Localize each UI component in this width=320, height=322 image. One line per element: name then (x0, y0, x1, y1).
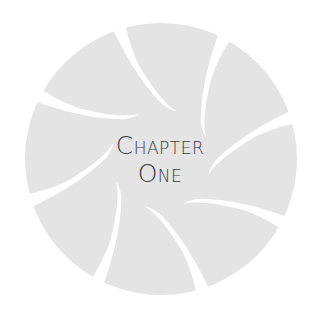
heading-initial: O (138, 159, 158, 188)
chapter-heading-line2: ONE (0, 161, 320, 186)
chapter-emblem: CHAPTER ONE (0, 0, 320, 322)
emblem-disc (25, 23, 297, 295)
chapter-heading-line1: CHAPTER (0, 133, 320, 158)
heading-initial: C (116, 131, 134, 160)
heading-word-rest: NE (158, 166, 182, 186)
heading-word-rest: HAPTER (134, 138, 205, 158)
